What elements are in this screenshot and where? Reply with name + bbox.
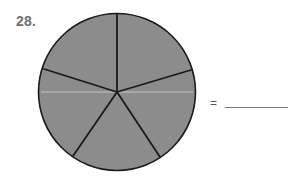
fraction-circle-figure [0,0,302,182]
equals-sign: = [210,96,217,110]
answer-blank[interactable] [225,107,288,108]
